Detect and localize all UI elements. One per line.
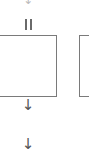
parallel-lines-icon xyxy=(24,19,33,30)
arrow-down-icon: ↓ xyxy=(20,98,36,113)
diagram-node-1[interactable] xyxy=(0,35,57,97)
diagram-canvas: ↓ ↓ ↓ xyxy=(0,0,89,157)
arrow-down-icon: ↓ xyxy=(20,137,36,152)
diagram-node-2[interactable] xyxy=(79,35,89,97)
arrow-down-icon: ↓ xyxy=(20,0,36,6)
parallel-bar-right xyxy=(30,19,32,30)
parallel-bar-left xyxy=(25,19,27,30)
